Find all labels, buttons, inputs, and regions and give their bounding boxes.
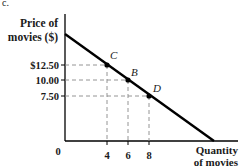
x-axis-label-line1: Quantity [196,144,239,156]
point-c [104,62,109,67]
x-tick-label: 8 [146,150,151,161]
y-tick-label: 7.50 [41,91,59,102]
y-tick-label: $12.50 [30,60,59,71]
x-tick-label: 4 [104,150,110,161]
y-axis-label-line1: Price of [20,17,58,29]
point-d [146,93,151,98]
y-tick-label: 10.00 [35,75,59,86]
point-b [125,77,130,82]
corner-label: c. [2,0,9,8]
demand-curve [65,34,214,141]
point-label-b: B [131,66,138,78]
x-axis-label-line2: of movies [194,156,239,167]
x-tick-label: 6 [125,150,130,161]
point-label-d: D [152,82,161,94]
demand-chart: c. Price of movies ($) $12.50 10.00 7.50… [0,0,241,167]
y-axis-label-line2: movies ($) [8,31,58,44]
point-label-c: C [110,49,118,61]
origin-label: 0 [55,146,60,157]
